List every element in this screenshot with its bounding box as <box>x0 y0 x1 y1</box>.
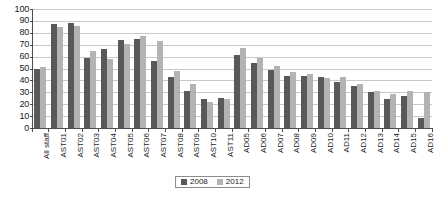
bar-group <box>82 9 99 128</box>
x-axis-label-cell: AST08 <box>165 133 182 175</box>
x-axis-label-cell: AD11 <box>332 133 349 175</box>
x-axis-label-cell: AD12 <box>349 133 366 175</box>
x-axis-tick <box>349 128 366 132</box>
bar-2012 <box>340 77 346 128</box>
y-axis-tick-label: 40 <box>0 76 29 85</box>
x-axis-label-cell: All staff <box>32 133 49 175</box>
bar-group <box>165 9 182 128</box>
x-axis-label-cell: AST06 <box>132 133 149 175</box>
bar-2012 <box>240 48 246 128</box>
x-axis-label-cell: AST02 <box>65 133 82 175</box>
legend-swatch-icon <box>217 179 223 185</box>
legend-swatch-icon <box>181 179 187 185</box>
bar-group <box>199 9 216 128</box>
x-axis-tick <box>82 128 99 132</box>
bar-2012 <box>224 99 230 128</box>
x-axis-label-cell: AD16 <box>415 133 432 175</box>
bar-group <box>415 9 432 128</box>
y-axis-tick-label: 30 <box>0 88 29 97</box>
x-axis-label-cell: AD10 <box>315 133 332 175</box>
x-axis-label-cell: AD15 <box>399 133 416 175</box>
y-axis-tick-label: 60 <box>0 52 29 61</box>
chart-legend: 20082012 <box>175 176 250 188</box>
bar-2012 <box>307 74 313 128</box>
x-axis-tick <box>65 128 82 132</box>
bar-group <box>182 9 199 128</box>
x-axis-label-cell: AD13 <box>365 133 382 175</box>
bar-group <box>265 9 282 128</box>
bar-2012 <box>57 27 63 128</box>
x-axis-label-cell: AST04 <box>99 133 116 175</box>
x-axis-label-cell: AST09 <box>182 133 199 175</box>
bar-group <box>215 9 232 128</box>
bar-group <box>249 9 266 128</box>
bar-groups <box>32 9 432 128</box>
x-axis-tick <box>415 128 432 132</box>
bar-2012 <box>407 91 413 128</box>
x-axis-tick <box>315 128 332 132</box>
bar-2012 <box>357 84 363 128</box>
x-axis-label-cell: AST01 <box>49 133 66 175</box>
bar-group <box>132 9 149 128</box>
bar-chart: 1009080706050403020100 All staffAST01AST… <box>0 0 438 199</box>
bar-group <box>299 9 316 128</box>
legend-item: 2012 <box>217 178 244 186</box>
bar-group <box>282 9 299 128</box>
x-axis-label-cell: AST10 <box>199 133 216 175</box>
bar-group <box>32 9 49 128</box>
y-axis-labels: 1009080706050403020100 <box>0 0 29 138</box>
bar-2012 <box>190 84 196 128</box>
legend-label: 2012 <box>226 178 244 186</box>
bar-group <box>115 9 132 128</box>
x-axis-label-cell: AD07 <box>265 133 282 175</box>
bar-2012 <box>390 94 396 129</box>
bar-2012 <box>174 71 180 128</box>
bar-2012 <box>257 58 263 128</box>
x-axis-label-cell: AD09 <box>299 133 316 175</box>
legend-label: 2008 <box>190 178 208 186</box>
x-axis-tick <box>282 128 299 132</box>
bar-2012 <box>290 72 296 128</box>
y-axis-tick-label: 0 <box>0 124 29 133</box>
bar-group <box>399 9 416 128</box>
bar-2012 <box>157 41 163 128</box>
x-axis-tick <box>165 128 182 132</box>
bar-group <box>365 9 382 128</box>
x-axis-labels: All staffAST01AST02AST03AST04AST05AST06A… <box>32 133 432 175</box>
x-axis-tick <box>299 128 316 132</box>
bar-2012 <box>207 102 213 128</box>
bar-2012 <box>40 67 46 128</box>
x-axis-tick <box>332 128 349 132</box>
x-axis-label-cell: AST11 <box>215 133 232 175</box>
bar-group <box>349 9 366 128</box>
bar-2012 <box>424 92 430 128</box>
y-axis-tick-label: 10 <box>0 112 29 121</box>
bar-2012 <box>90 51 96 128</box>
y-axis-tick-label: 80 <box>0 28 29 37</box>
y-axis-tick-label: 100 <box>0 5 29 14</box>
x-axis-tick <box>32 128 49 132</box>
bar-group <box>49 9 66 128</box>
bar-2012 <box>140 36 146 128</box>
x-axis-tick-label: AD16 <box>427 133 435 153</box>
x-axis-tick <box>215 128 232 132</box>
bar-group <box>232 9 249 128</box>
x-axis-tick <box>149 128 166 132</box>
bar-2012 <box>74 26 80 128</box>
x-axis-label-cell: AST03 <box>82 133 99 175</box>
x-axis-ticks <box>32 128 432 132</box>
x-axis-tick <box>382 128 399 132</box>
x-axis-tick <box>99 128 116 132</box>
bar-2012 <box>374 91 380 128</box>
legend-item: 2008 <box>181 178 208 186</box>
bar-group <box>315 9 332 128</box>
x-axis-tick <box>182 128 199 132</box>
y-axis-tick-label: 70 <box>0 40 29 49</box>
bar-2012 <box>107 59 113 128</box>
x-axis-tick <box>199 128 216 132</box>
y-axis-tick-label: 20 <box>0 100 29 109</box>
bar-2012 <box>124 44 130 128</box>
x-axis-tick <box>115 128 132 132</box>
x-axis-tick <box>365 128 382 132</box>
x-axis-label-cell: AD06 <box>249 133 266 175</box>
